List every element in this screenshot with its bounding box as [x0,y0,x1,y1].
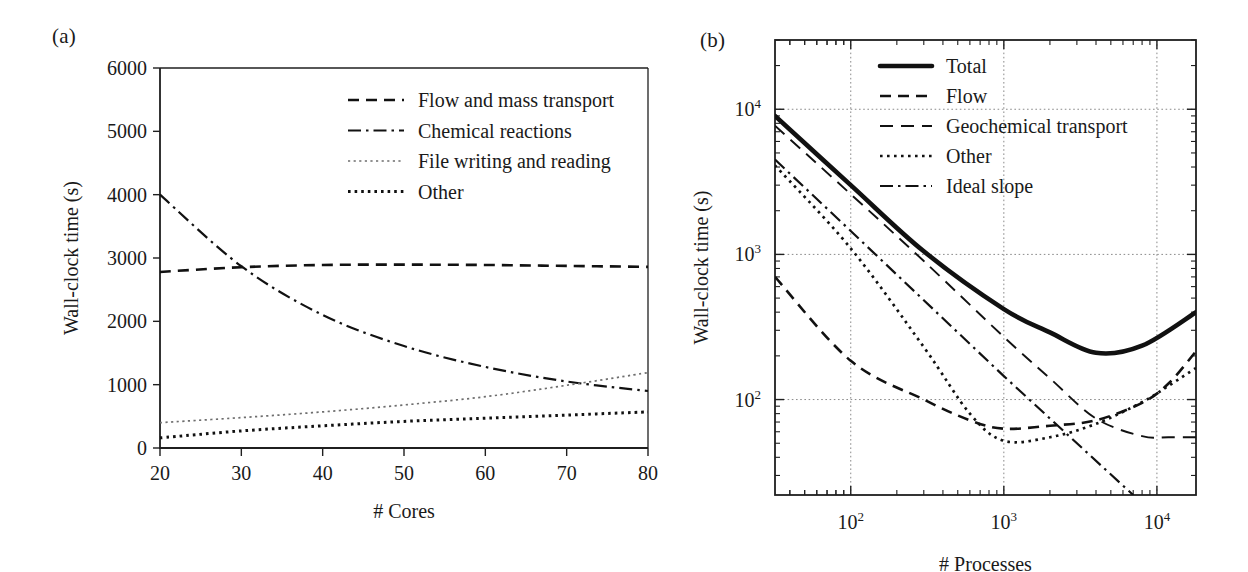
series-file-writing-and-reading [160,373,648,423]
x-tick-label: 50 [394,462,414,484]
y-tick-label: 1000 [107,374,147,396]
legend-label: Ideal slope [946,175,1033,198]
panel-a-legend: Flow and mass transportChemical reaction… [348,89,615,203]
figure-container: (a) 010002000300040005000600020304050607… [0,0,1248,572]
panel-a-series [160,195,648,438]
legend-label: Flow [946,85,988,107]
axis-frame [160,68,648,448]
panel-a: (a) 010002000300040005000600020304050607… [0,0,680,572]
legend-label: Chemical reactions [418,120,572,142]
x-tick-label: 40 [313,462,333,484]
x-tick-label: 60 [475,462,495,484]
y-tick-label: 104 [735,96,762,120]
svg-text:104: 104 [1144,509,1171,533]
series-chemical-reactions [160,195,648,391]
x-tick-label: 102 [838,509,865,533]
panel-b: (b) 102103104102103104# ProcessesWall-cl… [680,0,1248,572]
y-tick-label: 2000 [107,310,147,332]
x-tick-label: 70 [557,462,577,484]
x-tick-label: 103 [991,509,1018,533]
x-tick-label: 80 [638,462,658,484]
legend-label: Flow and mass transport [418,89,615,112]
svg-text:104: 104 [735,96,762,120]
y-axis-title: Wall-clock time (s) [60,181,83,335]
y-tick-label: 6000 [107,57,147,79]
y-tick-label: 0 [137,437,147,459]
x-tick-label: 30 [231,462,251,484]
y-axis-title: Wall-clock time (s) [690,191,713,345]
legend-label: File writing and reading [418,150,611,173]
y-tick-label: 102 [735,387,762,411]
svg-text:102: 102 [838,509,865,533]
series-other [160,412,648,438]
y-tick-label: 5000 [107,120,147,142]
series-other [775,165,1196,442]
axis-frame [775,40,1196,495]
panel-b-plot: 102103104102103104# ProcessesWall-clock … [680,0,1248,572]
legend-label: Geochemical transport [946,115,1128,138]
legend-label: Other [946,145,992,167]
panel-a-plot: 010002000300040005000600020304050607080#… [0,0,680,572]
svg-text:103: 103 [735,241,762,265]
panel-b-legend: TotalFlowGeochemical transportOtherIdeal… [880,55,1128,198]
panel-b-series [775,116,1196,495]
panel-b-axes: 102103104102103104 [735,40,1197,533]
x-axis-title: # Processes [939,553,1032,572]
legend-label: Total [946,55,987,77]
x-axis-title: # Cores [373,500,435,522]
x-tick-label: 20 [150,462,170,484]
y-tick-label: 3000 [107,247,147,269]
x-tick-label: 104 [1144,509,1171,533]
svg-text:102: 102 [735,387,762,411]
y-tick-label: 103 [735,241,762,265]
y-tick-label: 4000 [107,184,147,206]
svg-text:103: 103 [991,509,1018,533]
legend-label: Other [418,181,464,203]
panel-a-axes: 010002000300040005000600020304050607080 [107,57,658,484]
series-ideal-slope [775,160,1133,495]
series-flow-and-mass-transport [160,265,648,272]
